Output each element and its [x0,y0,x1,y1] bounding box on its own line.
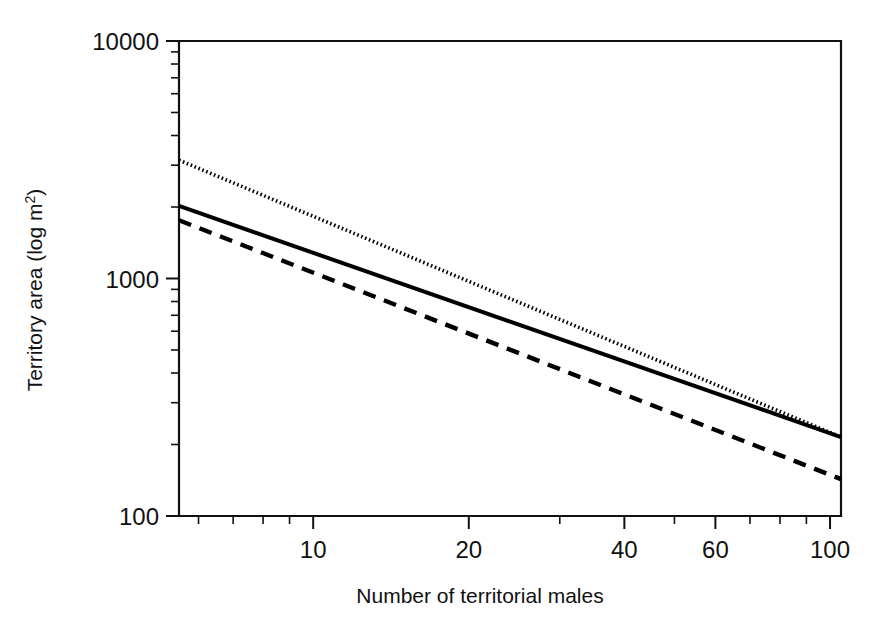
x-axis-label: Number of territorial males [356,584,603,607]
y-axis-label-close: ) [23,189,46,196]
y-tick-label-10000: 10000 [92,28,159,55]
x-tick-label-40: 40 [611,536,638,563]
y-axis-label-group: Territory area (log m2) [22,189,46,392]
chart-figure: 100001000100 10204060100 Number of terri… [0,0,874,630]
y-tick-label-1000: 1000 [106,266,159,293]
x-tick-label-100: 100 [810,536,850,563]
territory-area-line-chart: 100001000100 10204060100 Number of terri… [0,0,874,630]
x-tick-label-10: 10 [300,536,327,563]
x-tick-label-20: 20 [455,536,482,563]
chart-background [0,0,874,630]
y-axis-label-base: Territory area (log m [23,203,46,391]
y-tick-label-100: 100 [119,503,159,530]
x-tick-label-60: 60 [702,536,729,563]
y-axis-label-superscript: 2 [22,195,38,203]
y-axis-label: Territory area (log m2) [22,189,46,392]
